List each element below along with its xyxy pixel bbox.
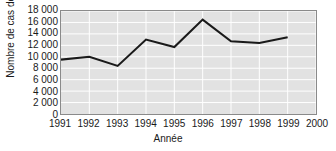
x-axis-title: Année xyxy=(0,133,336,144)
y-tick-label: 14 000 xyxy=(27,28,58,38)
plot-area xyxy=(60,10,317,115)
horizontal-gridlines xyxy=(61,11,316,103)
x-tick-label: 1998 xyxy=(249,118,271,129)
y-tick-label: 16 000 xyxy=(27,17,58,27)
y-axis-tick-labels: 02 0004 0006 0008 00010 00012 00014 0001… xyxy=(16,6,58,119)
x-tick-label: 2000 xyxy=(306,118,328,129)
y-tick-label: 2 000 xyxy=(33,98,58,108)
x-tick-label: 1996 xyxy=(192,118,214,129)
x-tick-label: 1995 xyxy=(163,118,185,129)
x-tick-label: 1997 xyxy=(220,118,242,129)
plot-svg xyxy=(61,11,316,114)
y-tick-label: 10 000 xyxy=(27,52,58,62)
y-tick-label: 18 000 xyxy=(27,5,58,15)
x-tick-label: 1993 xyxy=(106,118,128,129)
line-chart-figure: Nombre de cas déclarés 02 0004 0006 0008… xyxy=(0,0,336,151)
x-axis-tick-labels: 1991199219931994199519961997199819992000 xyxy=(0,118,336,131)
x-tick-label: 1991 xyxy=(49,118,71,129)
y-tick-label: 4 000 xyxy=(33,87,58,97)
y-tick-label: 6 000 xyxy=(33,75,58,85)
x-tick-label: 1994 xyxy=(135,118,157,129)
y-tick-label: 8 000 xyxy=(33,63,58,73)
y-axis-title: Nombre de cas déclarés xyxy=(5,0,16,79)
x-tick-label: 1999 xyxy=(277,118,299,129)
x-tick-label: 1992 xyxy=(77,118,99,129)
vertical-gridlines xyxy=(89,11,316,114)
y-tick-label: 12 000 xyxy=(27,40,58,50)
